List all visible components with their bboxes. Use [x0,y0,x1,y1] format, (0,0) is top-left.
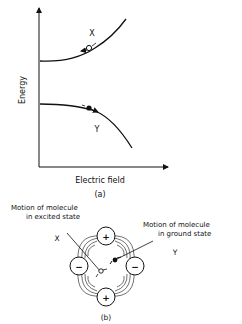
ground-annotation-line1: Motion of molecule [143,221,210,229]
charge-top-positive: + [97,227,115,245]
charge-bottom-positive: + [97,288,115,306]
excited-annotation-line1: Motion of molecule [11,204,78,212]
panel-b-quadrupole-diagram: Motion of molecule in excited state Moti… [11,204,211,322]
svg-text:−: − [75,262,83,272]
figure: X Y Energy Electric field (a) Motion of … [0,0,242,324]
label-y: Y [172,248,178,257]
charge-right-negative: − [126,257,144,275]
label-x: X [54,234,59,243]
pointer-line-y [117,241,153,259]
curve-y-label: Y [94,125,100,134]
excited-molecule-icon [96,269,107,277]
y-axis-label: Energy [18,76,27,104]
open-circle-marker-icon [81,43,96,51]
svg-text:−: − [131,262,139,272]
panel-b-caption: (b) [101,313,112,322]
charge-left-negative: − [70,257,88,275]
excited-annotation-line2: in excited state [26,213,80,221]
panel-a-energy-plot: X Y Energy Electric field (a) [18,8,168,199]
curve-y-ground [40,104,132,148]
ground-annotation-line2: in ground state [158,230,211,238]
curve-x-excited [40,19,126,61]
svg-text:+: + [102,293,110,303]
svg-text:+: + [102,232,110,242]
x-axis-label: Electric field [75,176,124,185]
curve-x-label: X [89,29,95,38]
panel-a-caption: (a) [94,190,105,199]
